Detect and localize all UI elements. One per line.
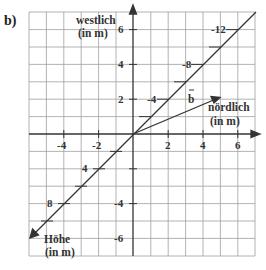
horizontal-axis-unit: (in m) (210, 115, 240, 128)
tick-label-v-neg6: -6 (114, 232, 124, 244)
tick-label-h-6: 6 (235, 139, 241, 151)
tick-label-d-4: 4 (82, 162, 88, 174)
diagonal-axis-label: Höhe (44, 233, 70, 245)
tick-label-v-6: 6 (118, 23, 124, 35)
vertical-axis-label: westlich (76, 14, 116, 26)
arrow-right-icon (251, 131, 260, 138)
tick-label-d-8: 8 (47, 197, 53, 209)
vertical-axis-unit: (in m) (78, 27, 108, 40)
tick-label-h-4: 4 (200, 139, 206, 151)
tick-label-v-4: 4 (118, 58, 124, 70)
horizontal-axis-label: nördlich (208, 101, 250, 113)
arrow-up-icon (130, 5, 137, 14)
tick-label-d-neg4: -4 (147, 93, 157, 105)
tick-label-d-neg12: -12 (211, 23, 226, 35)
tick-label-h-2: 2 (165, 139, 171, 151)
coordinate-diagram: westlich (in m) nördlich (in m) Höhe (in… (0, 0, 266, 270)
vector-b-label: b (188, 93, 194, 105)
tick-label-d-neg8: -8 (182, 58, 192, 70)
diagonal-axis-unit: (in m) (45, 246, 75, 259)
tick-label-h-neg2: -2 (92, 139, 102, 151)
tick-label-v-neg4: -4 (114, 197, 124, 209)
tick-label-v-2: 2 (118, 93, 124, 105)
tick-label-h-neg4: -4 (57, 139, 67, 151)
